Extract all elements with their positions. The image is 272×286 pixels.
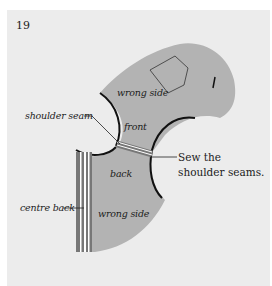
label-front: front [124,121,147,132]
instruction-caption: Sew the shoulder seams. [178,150,268,180]
label-centre-back: centre back [20,202,75,213]
garment-diagram [0,0,272,286]
label-back: back [110,168,132,179]
label-wrong-side-bottom: wrong side [98,208,149,219]
label-wrong-side-top: wrong side [117,87,168,98]
label-shoulder-seam: shoulder seam [25,110,93,121]
